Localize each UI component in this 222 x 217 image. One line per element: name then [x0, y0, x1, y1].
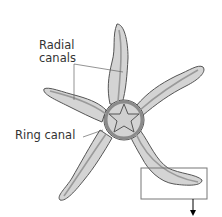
ring-canal-label: Ring canal: [15, 129, 75, 142]
radial-canals-label-line2: canals: [39, 52, 76, 65]
down-arrow-icon: [190, 199, 196, 216]
starfish-diagram: [0, 0, 222, 217]
